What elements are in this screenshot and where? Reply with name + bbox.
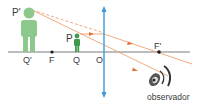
- arrow-icon: [89, 32, 94, 36]
- focus-point-f: [50, 50, 53, 53]
- label-q-prime: Q': [23, 56, 32, 65]
- refracted-ray: [104, 34, 192, 64]
- arrow-icon: [132, 68, 138, 72]
- label-o: O: [96, 56, 103, 65]
- object-figure: [74, 34, 80, 52]
- lens-arrow-bottom-icon: [102, 92, 107, 98]
- image-figure: [21, 8, 37, 53]
- light-rays: [32, 10, 192, 76]
- label-f-prime: F': [154, 42, 161, 51]
- virtual-ray-dashed: [32, 10, 104, 33]
- central-ray: [32, 10, 168, 76]
- label-q: Q: [73, 56, 80, 65]
- label-observer: observador: [147, 93, 190, 102]
- lens-diagram: [0, 0, 206, 106]
- label-f: F: [49, 56, 55, 65]
- label-p: P: [66, 34, 73, 44]
- observer-eye-icon: [149, 66, 170, 86]
- lens-arrow-top-icon: [102, 6, 107, 12]
- label-p-prime: P': [12, 8, 21, 18]
